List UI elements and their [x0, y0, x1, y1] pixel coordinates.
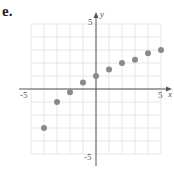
scatter-plot: yx-555-5 [0, 0, 174, 169]
chart: e. yx-555-5 [0, 0, 174, 169]
svg-text:-5: -5 [84, 152, 92, 162]
data-point [158, 47, 164, 53]
data-point [145, 50, 151, 56]
svg-text:y: y [99, 9, 104, 19]
data-point [54, 99, 60, 105]
svg-text:5: 5 [88, 17, 93, 27]
data-point [93, 73, 99, 79]
data-point [132, 57, 138, 63]
data-point [80, 80, 86, 86]
data-point [106, 67, 112, 73]
data-point [41, 125, 47, 131]
svg-text:-5: -5 [20, 90, 28, 100]
data-point [67, 89, 73, 95]
svg-text:x: x [167, 89, 172, 99]
data-point [119, 60, 125, 66]
svg-text:5: 5 [158, 90, 163, 100]
